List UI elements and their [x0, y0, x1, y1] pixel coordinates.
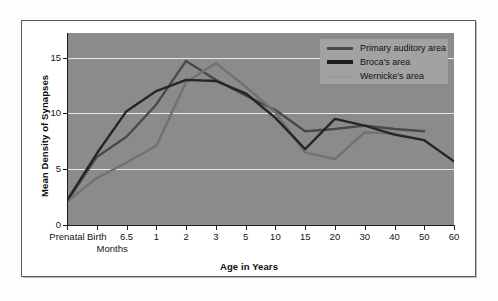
months-sublabel: Months — [97, 243, 128, 254]
x-tick-mark — [67, 226, 68, 230]
x-axis-line — [67, 225, 455, 226]
legend-label-broca: Broca's area — [360, 57, 410, 67]
legend-item-broca: Broca's area — [320, 55, 448, 69]
legend-label-wernicke: Wernicke's area — [360, 71, 424, 81]
x-tick-mark — [127, 226, 128, 230]
legend-label-primary-auditory: Primary auditory area — [360, 43, 446, 53]
x-axis-title: Age in Years — [0, 261, 498, 272]
x-tick-mark — [156, 226, 157, 230]
y-axis-title: Mean Density of Synapses — [39, 75, 50, 197]
legend-item-wernicke: Wernicke's area — [320, 69, 448, 83]
x-tick-mark — [97, 226, 98, 230]
legend-swatch-primary-auditory — [327, 47, 353, 50]
y-tick-mark — [63, 58, 67, 59]
x-tick-mark — [275, 226, 276, 230]
y-tick-mark — [63, 169, 67, 170]
legend-swatch-wernicke — [327, 75, 353, 78]
y-tick-mark — [63, 113, 67, 114]
y-axis-line — [67, 33, 68, 226]
x-tick-mark — [335, 226, 336, 230]
legend-item-primary-auditory: Primary auditory area — [320, 41, 448, 55]
x-tick-mark — [365, 226, 366, 230]
x-tick-mark — [186, 226, 187, 230]
x-tick-mark — [424, 226, 425, 230]
x-tick-mark — [246, 226, 247, 230]
x-tick-mark — [395, 226, 396, 230]
chart-legend: Primary auditory area Broca's area Werni… — [320, 39, 448, 84]
y-tick-label: 0 — [39, 220, 61, 230]
legend-swatch-broca — [327, 60, 353, 64]
y-tick-label: 15 — [39, 53, 61, 63]
x-tick-label: 60 — [424, 231, 484, 242]
x-tick-mark — [216, 226, 217, 230]
synapse-density-chart: 051015 PrenatalBirth6.512351015203040506… — [0, 0, 498, 301]
page-canvas: 051015 PrenatalBirth6.512351015203040506… — [0, 0, 498, 301]
x-tick-mark — [454, 226, 455, 230]
x-tick-mark — [305, 226, 306, 230]
